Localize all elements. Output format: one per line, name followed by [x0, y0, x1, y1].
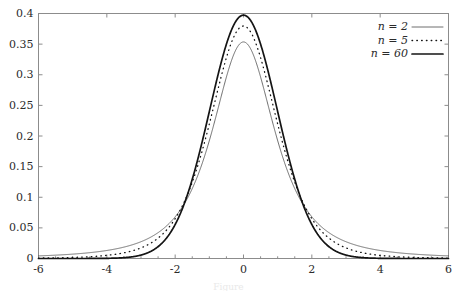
t-distribution-chart: -6-4-20246 00.050.10.150.20.250.30.350.4… [0, 0, 457, 291]
y-tick-label: 0.35 [9, 38, 34, 51]
x-tick-label: -2 [170, 263, 181, 276]
x-tick-label: -6 [33, 263, 44, 276]
x-tick-label: 6 [445, 263, 452, 276]
curve-n-5 [39, 26, 449, 258]
figure-caption: Figure [0, 282, 457, 291]
y-tick-label: 0.15 [9, 160, 34, 173]
x-axis-tick-labels: -6-4-20246 [33, 263, 452, 276]
figure-container: -6-4-20246 00.050.10.150.20.250.30.350.4… [0, 0, 457, 291]
y-axis-tick-labels: 00.050.10.150.20.250.30.350.4 [9, 7, 34, 265]
y-tick-label: 0.05 [9, 221, 34, 234]
legend-label-2: n = 60 [371, 47, 408, 60]
y-tick-label: 0.3 [16, 68, 34, 81]
x-tick-label: 2 [308, 263, 315, 276]
y-tick-label: 0.4 [16, 7, 34, 20]
curve-n-2 [39, 42, 449, 256]
y-tick-label: 0.2 [16, 130, 34, 143]
legend-label-1: n = 5 [378, 34, 408, 47]
y-tick-label: 0 [27, 252, 34, 265]
x-tick-label: 0 [240, 263, 247, 276]
y-tick-label: 0.25 [9, 99, 34, 112]
y-tick-label: 0.1 [16, 191, 34, 204]
chart-legend: n = 2n = 5n = 60 [371, 20, 443, 60]
x-tick-label: -4 [101, 263, 112, 276]
legend-label-0: n = 2 [378, 20, 408, 33]
x-tick-label: 4 [377, 263, 384, 276]
